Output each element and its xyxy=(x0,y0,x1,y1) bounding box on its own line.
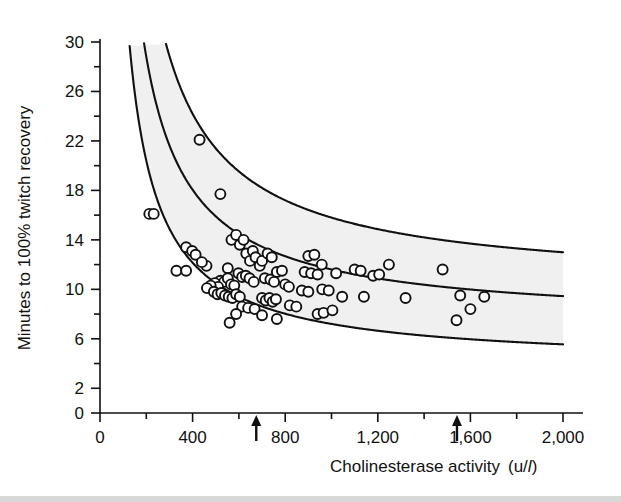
data-point xyxy=(249,277,259,287)
data-point xyxy=(401,293,411,303)
data-point xyxy=(277,266,287,276)
data-point xyxy=(331,268,341,278)
data-point xyxy=(309,250,319,260)
y-tick-label: 30 xyxy=(65,33,84,52)
data-point xyxy=(324,286,334,296)
y-tick-label: 6 xyxy=(75,330,84,349)
arrow-head xyxy=(251,415,261,426)
data-point xyxy=(374,269,384,279)
data-point xyxy=(465,304,475,314)
page-bottom-edge xyxy=(0,496,621,502)
data-point xyxy=(272,314,282,324)
x-tick-label: 2,000 xyxy=(542,428,585,447)
y-tick-label: 2 xyxy=(75,379,84,398)
x-tick-label: 1,600 xyxy=(449,428,492,447)
data-point xyxy=(356,266,366,276)
data-point xyxy=(317,260,327,270)
data-point xyxy=(479,292,489,302)
data-point xyxy=(271,294,281,304)
data-point xyxy=(257,310,267,320)
y-tick-label: 10 xyxy=(65,280,84,299)
unit-paren-open: (u/ xyxy=(508,457,528,476)
x-tick-label: 400 xyxy=(178,428,206,447)
data-point xyxy=(455,291,465,301)
y-tick-label: 18 xyxy=(65,181,84,200)
x-tick-label: 0 xyxy=(95,428,104,447)
data-point xyxy=(197,257,207,267)
data-point xyxy=(239,235,249,245)
data-point xyxy=(223,263,233,273)
unit-paren-close: ) xyxy=(532,457,538,476)
data-point xyxy=(149,209,159,219)
data-point xyxy=(337,292,347,302)
y-tick-label: 14 xyxy=(65,231,84,250)
y-tick-label: 0 xyxy=(75,404,84,423)
data-point xyxy=(171,266,181,276)
data-point xyxy=(284,282,294,292)
data-point xyxy=(303,287,313,297)
data-point xyxy=(313,269,323,279)
scatter-plot: 04008001,2001,6002,000026101418222630 Mi… xyxy=(0,0,621,502)
x-tick-label: 800 xyxy=(271,428,299,447)
data-point xyxy=(438,265,448,275)
x-axis-label: Cholinesterase activity (u/l) xyxy=(330,457,537,476)
arrow-head xyxy=(452,415,462,426)
data-point xyxy=(359,292,369,302)
data-point xyxy=(231,309,241,319)
y-tick-label: 22 xyxy=(65,132,84,151)
x-axis-unit-text: (u/l) xyxy=(508,457,537,476)
data-point xyxy=(195,135,205,145)
data-point xyxy=(327,305,337,315)
data-point xyxy=(269,277,279,287)
y-tick-label: 26 xyxy=(65,82,84,101)
data-point xyxy=(291,302,301,312)
x-axis-label-text: Cholinesterase activity xyxy=(330,457,501,476)
y-axis-label: Minutes to 100% twitch recovery xyxy=(15,105,34,350)
data-point xyxy=(384,260,394,270)
x-tick-label: 1,200 xyxy=(357,428,400,447)
data-point xyxy=(215,189,225,199)
figure-container: 04008001,2001,6002,000026101418222630 Mi… xyxy=(0,0,621,502)
data-point xyxy=(235,292,245,302)
data-point xyxy=(267,252,277,262)
data-point xyxy=(181,266,191,276)
data-point xyxy=(225,318,235,328)
data-point xyxy=(452,315,462,325)
arrow-marker-low xyxy=(251,415,261,441)
